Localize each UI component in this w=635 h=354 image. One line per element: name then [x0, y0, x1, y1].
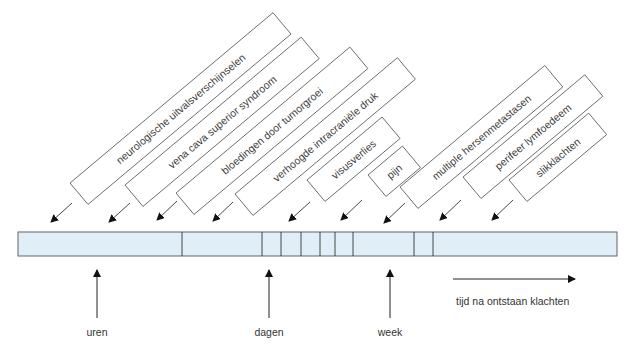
time-axis-label: tijd na ontstaan klachten — [456, 295, 569, 307]
arrow-icon — [157, 201, 177, 220]
time-marker: week — [377, 270, 403, 338]
time-marker: uren — [86, 270, 107, 338]
arrow-icon — [492, 200, 513, 220]
time-marker: dagen — [254, 270, 283, 338]
arrow-icon — [51, 203, 72, 222]
arrow-icon — [289, 202, 310, 221]
arrow-icon — [440, 200, 461, 220]
timeline-diagram: neurologische uitvalsverschijnselenvena … — [0, 0, 635, 354]
arrow-icon — [384, 203, 405, 223]
time-direction: tijd na ontstaan klachten — [453, 279, 575, 307]
time-marker-label: dagen — [254, 326, 283, 338]
time-marker-label: week — [377, 326, 403, 338]
time-marker-label: uren — [86, 326, 107, 338]
arrow-icon — [109, 203, 130, 222]
arrow-icon — [213, 202, 233, 221]
arrow-icon — [341, 200, 362, 220]
symptom-arrows — [51, 200, 513, 223]
timeline-bar — [18, 232, 617, 256]
